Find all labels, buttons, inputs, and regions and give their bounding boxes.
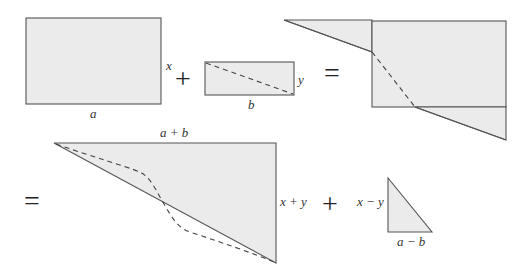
label-b: b (248, 97, 255, 112)
label-a: a (90, 106, 97, 121)
small-triangle (388, 178, 432, 232)
rectangle-a-x (26, 18, 161, 104)
label-x-plus-y: x + y (279, 194, 307, 209)
label-a-plus-b: a + b (160, 125, 189, 140)
label-x: x (165, 58, 172, 73)
rectangle-b-y (205, 62, 294, 95)
plus-operator-2: + (322, 188, 338, 219)
equals-operator-1: = (324, 57, 340, 88)
label-a-minus-b: a − b (397, 234, 426, 249)
label-y: y (296, 72, 304, 87)
big-triangle (54, 143, 276, 263)
label-x-minus-y: x − y (356, 194, 384, 209)
plus-operator-1: + (175, 63, 191, 94)
equals-operator-2: = (24, 185, 40, 216)
proof-diagram: a x + b y = = a + b x + y + x − y a − b (0, 0, 531, 278)
composite-shape (284, 20, 506, 140)
